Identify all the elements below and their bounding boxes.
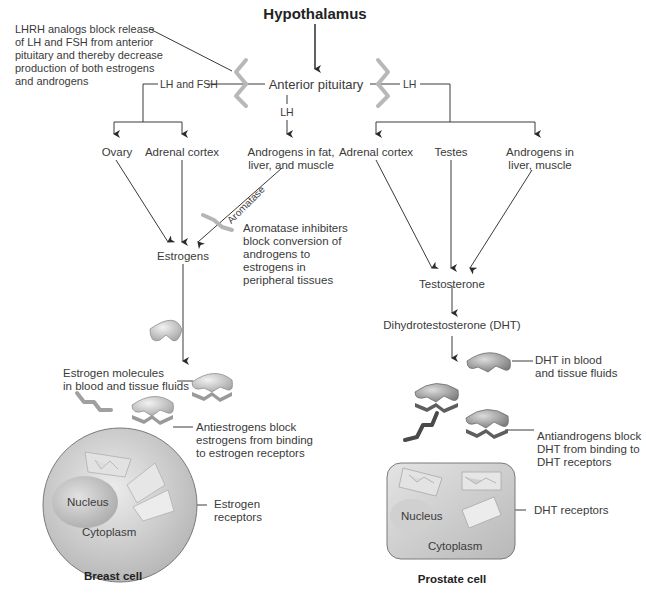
dht-receptors-note: DHT receptors bbox=[534, 504, 609, 517]
testosterone-label: Testosterone bbox=[419, 278, 485, 291]
lhrh-blocker-left bbox=[236, 60, 246, 106]
breast-cytoplasm-label: Cytoplasm bbox=[82, 526, 136, 539]
testes-label: Testes bbox=[434, 146, 467, 159]
prostate-nucleus-label: Nucleus bbox=[401, 510, 443, 523]
androgens-liver-muscle-label: Androgens in liver, muscle bbox=[506, 146, 574, 172]
dht-molecule-free bbox=[467, 353, 510, 372]
prostate-cytoplasm-label: Cytoplasm bbox=[428, 540, 482, 553]
estrogen-molecule-bound-1 bbox=[192, 373, 233, 402]
antiandrogens-note: Antiandrogens block DHT from binding to … bbox=[537, 430, 641, 469]
hypothalamus-label: Hypothalamus bbox=[263, 7, 366, 20]
ovary-label: Ovary bbox=[102, 146, 133, 159]
dht-molecule-bound-2 bbox=[466, 409, 508, 439]
aromatase-inhibitor-note: Aromatase inhibiters block conversion of… bbox=[243, 222, 348, 287]
androgens-fat-liver-muscle-label: Androgens in fat, liver, and muscle bbox=[248, 146, 335, 172]
estrogen-molecule-bound-2 bbox=[132, 396, 173, 425]
estrogens-label: Estrogens bbox=[157, 250, 209, 263]
lhrh-blocker-right bbox=[378, 60, 388, 106]
lhrh-analogs-note: LHRH analogs block release of LH and FSH… bbox=[15, 23, 163, 88]
prostate-cell-label: Prostate cell bbox=[418, 573, 486, 586]
antiestrogens-note: Antiestrogens block estrogens from bindi… bbox=[196, 421, 313, 460]
dht-label: Dihydrotestosterone (DHT) bbox=[383, 319, 520, 332]
breast-cell-label: Breast cell bbox=[84, 570, 142, 583]
right-lh-label: LH bbox=[403, 78, 416, 91]
breast-nucleus-label: Nucleus bbox=[67, 496, 109, 509]
estrogen-molecule-free bbox=[150, 320, 182, 341]
dht-blood-note: DHT in blood and tissue fluids bbox=[535, 354, 617, 380]
adrenal-cortex-left-label: Adrenal cortex bbox=[145, 146, 219, 159]
estrogen-receptors-note: Estrogen receptors bbox=[214, 498, 262, 524]
dht-molecule-bound-1 bbox=[415, 383, 458, 413]
estrogen-molecules-note: Estrogen molecules in blood and tissue f… bbox=[63, 367, 189, 393]
center-lh-label: LH bbox=[280, 106, 293, 119]
lh-and-fsh-label: LH and FSH bbox=[160, 78, 218, 91]
anterior-pituitary-label: Anterior pituitary bbox=[269, 78, 364, 91]
adrenal-cortex-right-label: Adrenal cortex bbox=[339, 146, 413, 159]
